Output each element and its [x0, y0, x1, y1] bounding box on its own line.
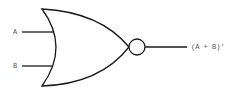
output-label: (A + B)'	[191, 43, 225, 51]
nor-gate-body	[42, 9, 129, 86]
inversion-bubble	[129, 39, 145, 55]
input-b-label: B	[13, 62, 17, 70]
input-a-label: A	[13, 28, 17, 36]
